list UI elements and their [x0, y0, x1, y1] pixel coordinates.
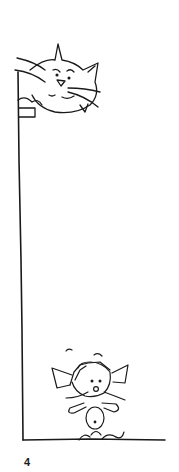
- wall-lines: [18, 72, 165, 440]
- big-cat-icon: [15, 44, 100, 117]
- page-number: 4: [24, 456, 30, 468]
- small-cat-icon: [52, 349, 128, 440]
- comic-panel: [0, 0, 179, 472]
